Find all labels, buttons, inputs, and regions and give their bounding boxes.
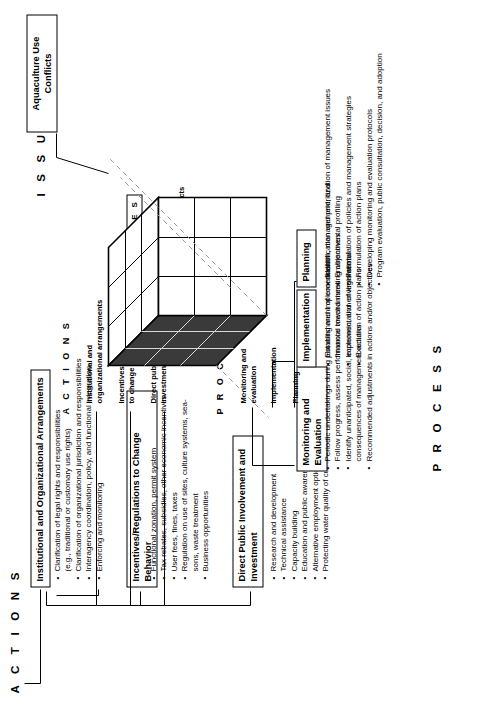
leader-planning <box>294 281 296 407</box>
figure-canvas: A C T I O N S Institutional and Organiza… <box>0 0 481 717</box>
leader-actions-title <box>24 589 40 683</box>
cube-front-face <box>158 197 266 315</box>
leader-actions-g1 <box>56 589 98 595</box>
figure-page: A C T I O N S Institutional and Organiza… <box>0 0 481 717</box>
figure-line-art <box>0 0 481 717</box>
leader-incent-to-cube <box>130 591 140 605</box>
leader-issues-callout <box>56 133 108 173</box>
leader-monitoring <box>252 407 294 465</box>
leader-implementation <box>272 361 294 407</box>
guide-diagonal-2 <box>216 365 268 417</box>
leader-direct-to-cube <box>164 591 250 605</box>
leader-inst-to-cube <box>46 591 96 605</box>
